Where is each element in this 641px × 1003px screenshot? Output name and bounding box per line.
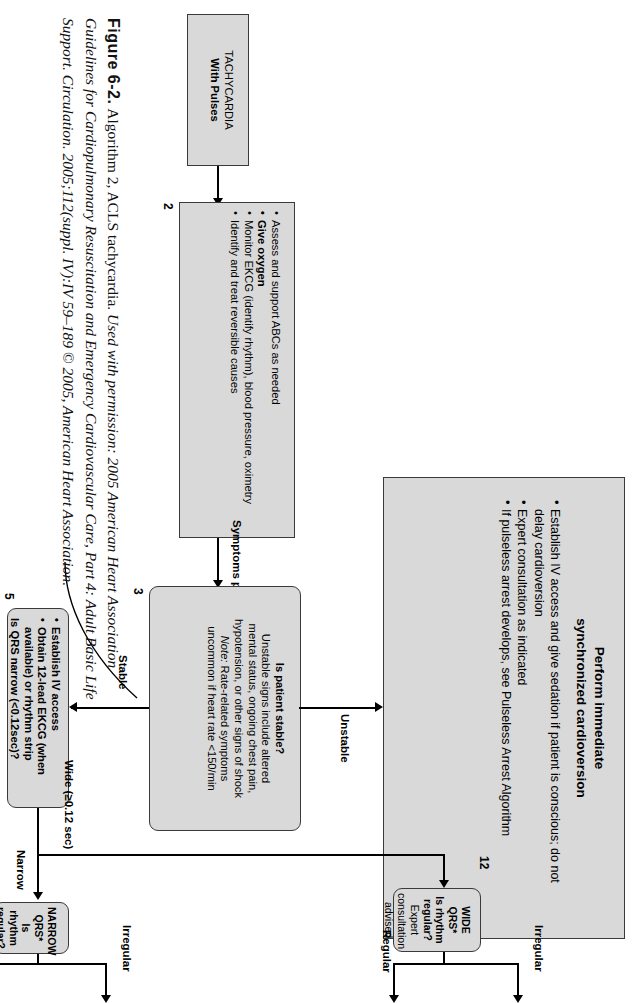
box4-title-line2: synchronized cardioversion bbox=[573, 500, 591, 916]
box12-title: WIDE QRS* bbox=[446, 893, 472, 947]
edge-wide-horizontal bbox=[443, 854, 445, 882]
box3-line1: Unstable signs include altered bbox=[259, 595, 273, 822]
box2-bullet-1: Give oxygen bbox=[255, 211, 269, 529]
figure-credit-line1: Used with permission: 2005 American Hear… bbox=[105, 314, 122, 668]
edge-box12-regular-out bbox=[393, 963, 395, 997]
figure-title: Algorithm 2, ACLS tachycardia. bbox=[105, 108, 122, 310]
box4-bullet-2: If pulseless arrest develops, see Pulsel… bbox=[498, 500, 514, 916]
box3-line3: hypotension, or other signs of shock bbox=[231, 595, 245, 822]
box6: NARROW QRS* Is rhythm regular? bbox=[0, 902, 69, 954]
box2-number: 2 bbox=[161, 203, 175, 210]
figure-credit-line2: Guidelines for Cardiopulmonary Resuscita… bbox=[83, 18, 100, 700]
edge-box3-to-box4 bbox=[299, 707, 375, 709]
box3-note-line1: Rate-related symptoms bbox=[219, 662, 231, 781]
start-label-line2: With Pulses bbox=[208, 23, 222, 157]
edge-box5-trunk bbox=[37, 808, 39, 856]
arrowhead-box3-to-box4 bbox=[375, 702, 383, 712]
edge-label-wide-regular: Regular bbox=[381, 930, 393, 973]
edge-box12-stem bbox=[443, 952, 445, 965]
arrowhead-box6-irregular bbox=[101, 995, 111, 1003]
edge-label-narrow: Narrow bbox=[15, 850, 27, 890]
arrowhead-box12-irregular bbox=[513, 995, 523, 1003]
box2-bullet-list: Assess and support ABCs as needed Give o… bbox=[227, 211, 282, 529]
box5-question: Is QRS narrow (<0.12sec)? bbox=[7, 618, 21, 798]
edge-box12-split-vertical bbox=[395, 963, 519, 965]
box2-bullet-0: Assess and support ABCs as needed bbox=[268, 211, 282, 529]
arrowhead-box12-regular bbox=[389, 995, 399, 1003]
box6-title: NARROW QRS* bbox=[32, 907, 58, 949]
arrowhead-wide-to-box12 bbox=[439, 880, 449, 888]
box4-bullet-0: Establish IV access and give sedation if… bbox=[530, 500, 563, 916]
box2: Assess and support ABCs as needed Give o… bbox=[179, 202, 295, 538]
edge-start-to-box2 bbox=[217, 166, 219, 200]
box4-bullet-1: Expert consultation as indicated bbox=[514, 500, 530, 916]
edge-box6-split-vertical bbox=[0, 963, 107, 965]
box4: Perform immediate synchronized cardiover… bbox=[383, 477, 625, 939]
edge-box12-irregular-out bbox=[517, 963, 519, 997]
box3-note-label: Note: bbox=[219, 636, 231, 663]
box2-bullet-2: Monitor EKCG (identify rhythm), blood pr… bbox=[241, 211, 255, 529]
box3-note-line2: uncommon if heart rate <150/min bbox=[204, 595, 218, 822]
edge-label-narrow-irregular: Irregular bbox=[121, 925, 133, 972]
box3-line2: mental status, ongoing chest pain, bbox=[245, 595, 259, 822]
edge-label-wide-irregular: Irregular bbox=[533, 925, 545, 972]
arrowhead-narrow-to-box6 bbox=[33, 892, 43, 900]
box5-bullet-1: Obtain 12-lead EKCG (when available) or … bbox=[21, 618, 48, 798]
edge-label-unstable: Unstable bbox=[339, 714, 351, 763]
box12-question: Is rhythm regular? bbox=[421, 893, 447, 947]
figure-number: Figure 6-2. bbox=[105, 18, 122, 104]
box4-bullet-list: Establish IV access and give sedation if… bbox=[498, 500, 563, 916]
edge-narrow-horizontal bbox=[37, 854, 39, 894]
box12-number: 12 bbox=[477, 856, 491, 869]
edge-box6-stem bbox=[37, 954, 39, 965]
figure-credit-line3: Support. Circulation. 2005;112(suppl. IV… bbox=[60, 18, 77, 586]
box5-number: 5 bbox=[2, 593, 16, 600]
edge-box6-irregular-out bbox=[105, 963, 107, 997]
start-box-tachycardia: TACHYCARDIA With Pulses bbox=[187, 14, 249, 166]
start-label-line1: TACHYCARDIA bbox=[221, 23, 235, 157]
box4-title-line1: Perform immediate bbox=[590, 500, 608, 916]
box3: Is patient stable? Unstable signs includ… bbox=[149, 586, 301, 831]
edge-box2-to-box3 bbox=[217, 538, 219, 582]
box2-bullet-3: Identify and treat reversible causes bbox=[227, 211, 241, 529]
box12-note-line1: Expert consultation bbox=[395, 893, 421, 947]
box3-heading: Is patient stable? bbox=[272, 595, 286, 822]
figure-caption: Figure 6-2. Algorithm 2, ACLS tachycardi… bbox=[57, 18, 125, 858]
box6-question: Is rhythm regular? bbox=[0, 907, 32, 949]
box12: WIDE QRS* Is rhythm regular? Expert cons… bbox=[393, 888, 481, 952]
